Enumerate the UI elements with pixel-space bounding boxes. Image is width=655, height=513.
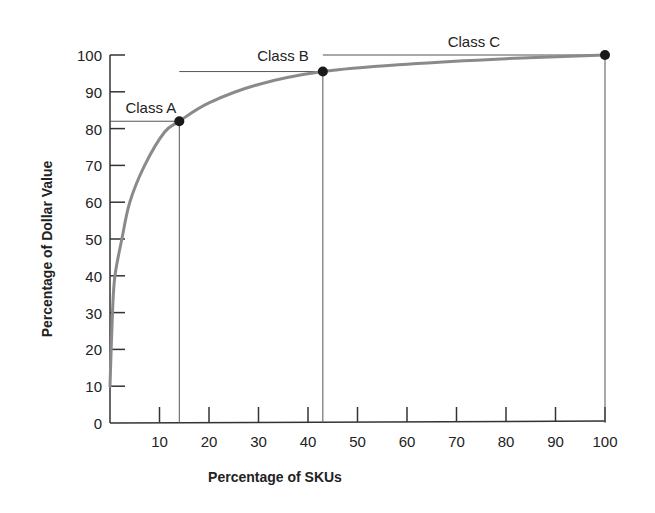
class-point-marker xyxy=(600,50,610,60)
y-tick-label: 10 xyxy=(85,378,102,395)
class-c-label: Class C xyxy=(448,33,501,50)
x-tick-label: 50 xyxy=(349,433,366,450)
y-tick-label: 50 xyxy=(85,231,102,248)
x-tick-label: 100 xyxy=(592,433,617,450)
class-b-label: Class B xyxy=(257,47,309,64)
y-tick-label: 60 xyxy=(85,194,102,211)
class-point-marker xyxy=(318,67,328,77)
y-tick-label: 90 xyxy=(85,84,102,101)
x-tick-label: 10 xyxy=(151,433,168,450)
x-tick-label: 40 xyxy=(300,433,317,450)
x-axis-title: Percentage of SKUs xyxy=(208,469,342,485)
x-tick-label: 70 xyxy=(448,433,465,450)
y-tick-label: 40 xyxy=(85,268,102,285)
x-tick-label: 60 xyxy=(399,433,416,450)
x-tick-label: 90 xyxy=(547,433,564,450)
y-tick-label: 0 xyxy=(94,415,102,432)
cumulative-curve xyxy=(110,55,605,386)
y-tick-label: 30 xyxy=(85,305,102,322)
y-tick-label: 100 xyxy=(77,47,102,64)
y-axis-title: Percentage of Dollar Value xyxy=(39,160,55,337)
abc-analysis-chart: 0102030405060708090100102030405060708090… xyxy=(0,0,655,513)
y-tick-label: 70 xyxy=(85,157,102,174)
y-tick-label: 80 xyxy=(85,121,102,138)
x-tick-label: 80 xyxy=(498,433,515,450)
x-tick-label: 30 xyxy=(250,433,267,450)
y-tick-label: 20 xyxy=(85,341,102,358)
x-tick-label: 20 xyxy=(201,433,218,450)
plot-area: 0102030405060708090100102030405060708090… xyxy=(39,33,618,485)
class-a-label: Class A xyxy=(125,99,176,116)
class-point-marker xyxy=(174,116,184,126)
